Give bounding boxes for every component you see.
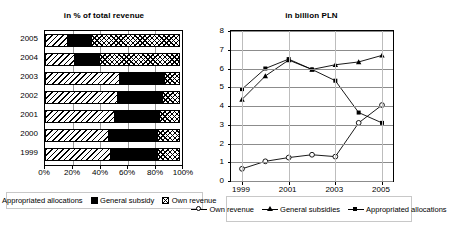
bar-segment-own-revenue-1999 bbox=[157, 148, 180, 161]
bar-row-2001 bbox=[45, 110, 182, 123]
line-vgridline-2003 bbox=[335, 31, 336, 181]
bar-segment-appropriated-allocations-2005 bbox=[45, 34, 68, 47]
line-ylabel-7: 7 bbox=[210, 45, 224, 54]
legend-label-general-subsidy: General subsidy bbox=[100, 196, 154, 205]
legend-label-appropriated-allocations: Appropriated allocations bbox=[2, 196, 82, 205]
bar-segment-general-subsidy-1999 bbox=[110, 148, 158, 161]
line-vgridline-2005 bbox=[382, 31, 383, 181]
line-ytick-2 bbox=[228, 144, 231, 145]
legend-label-appropriated-allocations-line: Appropriated allocations bbox=[366, 205, 446, 214]
bar-ylabel-1999: 1999 bbox=[0, 146, 38, 159]
legend-item-own-revenue-line: Own revenue bbox=[191, 205, 254, 214]
line-xlabel-2005: 2005 bbox=[368, 185, 394, 194]
line-ylabel-5: 5 bbox=[210, 82, 224, 91]
bar-ylabel-2002: 2002 bbox=[0, 89, 38, 102]
line-ytick-0 bbox=[228, 181, 231, 182]
line-xlabel-1999: 1999 bbox=[228, 185, 254, 194]
line-xtick-2003 bbox=[335, 182, 336, 185]
line-chart-panel: in billion PLN 012345678 199920012003200… bbox=[208, 0, 415, 230]
filled-triangle-marker-icon bbox=[262, 205, 278, 213]
bar-row-1999 bbox=[45, 148, 182, 161]
bar-segment-own-revenue-2000 bbox=[157, 129, 180, 142]
line-chart-legend: Own revenue General subsidies Appropriat… bbox=[226, 196, 412, 222]
line-gridline-5 bbox=[231, 87, 393, 88]
line-marker-appropriated-allocations-2004 bbox=[357, 111, 361, 115]
bar-segment-general-subsidy-2005 bbox=[67, 34, 92, 47]
line-gridline-6 bbox=[231, 69, 393, 70]
bar-segment-general-subsidy-2000 bbox=[108, 129, 157, 142]
open-circle-marker-icon bbox=[191, 205, 207, 213]
line-series-general-subsidies bbox=[242, 55, 382, 99]
line-ylabel-8: 8 bbox=[210, 26, 224, 35]
legend-label-own-revenue-line: Own revenue bbox=[209, 205, 254, 214]
line-ytick-8 bbox=[228, 31, 231, 32]
line-gridline-7 bbox=[231, 50, 393, 51]
bar-segment-own-revenue-2003 bbox=[164, 72, 180, 85]
bar-segment-general-subsidy-2002 bbox=[117, 91, 164, 104]
bar-ylabel-2005: 2005 bbox=[0, 32, 38, 45]
line-ylabel-3: 3 bbox=[210, 120, 224, 129]
line-gridline-1 bbox=[231, 162, 393, 163]
bar-ylabel-2004: 2004 bbox=[0, 51, 38, 64]
dots-swatch-icon bbox=[162, 197, 169, 204]
line-xtick-1999 bbox=[242, 182, 243, 185]
line-ylabel-6: 6 bbox=[210, 64, 224, 73]
bar-ylabel-2000: 2000 bbox=[0, 127, 38, 140]
solid-swatch-icon bbox=[91, 197, 98, 204]
line-chart-title: in billion PLN bbox=[208, 11, 415, 20]
bar-row-2003 bbox=[45, 72, 182, 85]
line-xlabel-2001: 2001 bbox=[275, 185, 301, 194]
line-gridline-3 bbox=[231, 125, 393, 126]
bar-xlabel-100: 100% bbox=[168, 168, 198, 177]
bar-segment-own-revenue-2001 bbox=[159, 110, 180, 123]
bar-row-2000 bbox=[45, 129, 182, 142]
line-xlabel-2003: 2003 bbox=[321, 185, 347, 194]
filled-square-marker-icon bbox=[348, 205, 364, 213]
line-plot-area bbox=[230, 30, 394, 182]
bar-segment-appropriated-allocations-2001 bbox=[45, 110, 115, 123]
bar-segment-general-subsidy-2001 bbox=[114, 110, 161, 123]
bar-xlabel-0: 0% bbox=[29, 168, 59, 177]
legend-item-appropriated-allocations: Appropriated allocations bbox=[0, 196, 83, 205]
bar-row-2005 bbox=[45, 34, 182, 47]
line-ylabel-4: 4 bbox=[210, 101, 224, 110]
line-marker-own-revenue-2002 bbox=[310, 152, 315, 157]
line-ytick-7 bbox=[228, 50, 231, 51]
line-ytick-4 bbox=[228, 106, 231, 107]
line-gridline-0 bbox=[231, 181, 393, 182]
bar-segment-appropriated-allocations-2003 bbox=[45, 72, 120, 85]
bar-chart-panel: in % of total revenue 2005 2004 2003 200… bbox=[0, 0, 208, 230]
bar-plot-area bbox=[44, 30, 183, 166]
line-vgridline-2001 bbox=[289, 31, 290, 181]
line-xtick-2001 bbox=[289, 182, 290, 185]
line-ytick-1 bbox=[228, 162, 231, 163]
bar-xlabel-40: 40% bbox=[85, 168, 115, 177]
line-vgridline-1999 bbox=[242, 31, 243, 181]
line-gridline-2 bbox=[231, 144, 393, 145]
line-ylabel-2: 2 bbox=[210, 139, 224, 148]
bar-xlabel-20: 20% bbox=[57, 168, 87, 177]
legend-label-general-subsidies-line: General subsidies bbox=[280, 205, 340, 214]
line-ylabel-0: 0 bbox=[210, 176, 224, 185]
line-gridline-8 bbox=[231, 31, 393, 32]
bar-chart-title: in % of total revenue bbox=[0, 11, 208, 20]
legend-item-appropriated-allocations-line: Appropriated allocations bbox=[348, 205, 446, 214]
legend-item-general-subsidy: General subsidy bbox=[91, 196, 155, 205]
bar-chart-legend: Appropriated allocations General subsidy… bbox=[6, 192, 203, 209]
bar-ylabel-2003: 2003 bbox=[0, 70, 38, 83]
bar-segment-appropriated-allocations-2004 bbox=[45, 53, 75, 66]
line-marker-general-subsidies-2000 bbox=[263, 73, 268, 78]
bar-segment-own-revenue-2004 bbox=[99, 53, 180, 66]
line-series-own-revenue bbox=[242, 105, 382, 169]
bar-segment-appropriated-allocations-2000 bbox=[45, 129, 109, 142]
bar-segment-general-subsidy-2003 bbox=[119, 72, 164, 85]
line-ylabel-1: 1 bbox=[210, 157, 224, 166]
bar-segment-own-revenue-2002 bbox=[162, 91, 180, 104]
bar-ylabel-2001: 2001 bbox=[0, 108, 38, 121]
bar-segment-appropriated-allocations-2002 bbox=[45, 91, 118, 104]
legend-item-general-subsidies-line: General subsidies bbox=[262, 205, 340, 214]
bar-row-2004 bbox=[45, 53, 182, 66]
bar-row-2002 bbox=[45, 91, 182, 104]
bar-segment-general-subsidy-2004 bbox=[74, 53, 100, 66]
